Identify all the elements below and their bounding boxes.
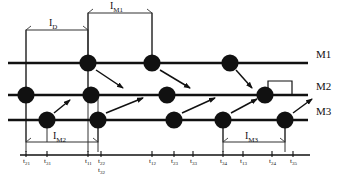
arrow-a2 (160, 70, 190, 88)
operation-nodes (17, 54, 293, 128)
operation-node-n-m2-1[interactable] (17, 86, 34, 103)
arrow-a5 (106, 98, 143, 113)
bracket-tip-im3-1 (280, 138, 285, 142)
bracket-tip-id-0 (26, 26, 31, 30)
tick-label-t13: t13 (240, 157, 247, 166)
operation-node-n-m3-5[interactable] (276, 111, 293, 128)
tick-label-t24: t24 (269, 157, 276, 166)
bracket-tip-im2-0 (26, 138, 31, 142)
diagram-canvas: t21t31t11t22t32t12t23t33t34t13t24t35 M1M… (0, 0, 354, 181)
time-axis (20, 151, 310, 157)
operation-node-n-m1-1[interactable] (79, 54, 96, 71)
machine-label-m1: M1 (316, 48, 331, 60)
operation-node-n-m1-3[interactable] (221, 54, 238, 71)
interval-bracket-im1 (88, 13, 152, 63)
bracket-tip-im1-1 (147, 9, 152, 13)
arrow-a4 (54, 100, 70, 113)
time-tick-labels: t21t31t11t22t32t12t23t33t34t13t24t35 (23, 157, 297, 175)
tick-label-t32: t32 (98, 166, 105, 175)
operation-node-n-m3-4[interactable] (214, 111, 231, 128)
tick-label-t34: t34 (220, 157, 227, 166)
machine-label-m2: M2 (316, 80, 331, 92)
operation-node-n-m1-2[interactable] (143, 54, 160, 71)
arrow-a3 (236, 70, 252, 88)
bracket-tip-im2-1 (93, 138, 98, 142)
tick-label-t35: t35 (290, 157, 297, 166)
tick-label-t31: t31 (44, 157, 51, 166)
tick-label-t23: t23 (171, 157, 178, 166)
tick-label-t33: t33 (190, 157, 197, 166)
operation-node-n-m3-2[interactable] (89, 111, 106, 128)
tick-label-t12: t12 (149, 157, 156, 166)
arrow-a7 (231, 99, 257, 113)
arrow-a6 (182, 98, 215, 113)
tick-label-t21: t21 (23, 157, 30, 166)
interval-label-im1: IM1 (110, 0, 124, 14)
machine-label-m3: M3 (316, 105, 332, 117)
arrow-a1 (96, 70, 123, 88)
interval-label-id: ID (49, 17, 57, 31)
operation-node-n-m2-4[interactable] (256, 86, 273, 103)
tick-label-t22: t22 (98, 157, 105, 166)
operation-node-n-m2-2[interactable] (82, 86, 99, 103)
schedule-diagram: t21t31t11t22t32t12t23t33t34t13t24t35 M1M… (0, 0, 354, 181)
machine-labels: M1M2M3 (316, 48, 332, 117)
arrow-a8 (293, 99, 312, 113)
operation-node-n-m3-1[interactable] (38, 111, 55, 128)
bracket-tip-im1-0 (88, 9, 93, 13)
bracket-tip-id-1 (83, 26, 88, 30)
operation-node-n-m2-3[interactable] (158, 86, 175, 103)
interval-brackets (26, 9, 285, 142)
bracket-tip-im3-0 (223, 138, 228, 142)
tick-label-t11: t11 (85, 157, 92, 166)
operation-node-n-m3-3[interactable] (165, 111, 182, 128)
